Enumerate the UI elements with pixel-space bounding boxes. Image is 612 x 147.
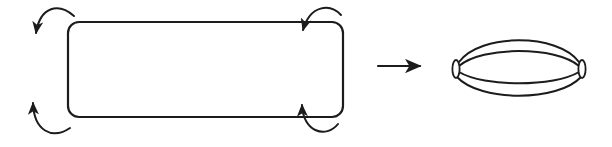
lens-meridian-upper	[459, 51, 579, 66]
lens-meridian-lower	[459, 72, 579, 83]
lens-right-cap	[578, 60, 585, 78]
glue-arrow-top-right	[303, 8, 341, 30]
glue-arrow-bottom-right	[302, 105, 338, 132]
lens-meridian-bottom	[457, 77, 581, 96]
lens-left-cap	[452, 60, 459, 78]
gluing-diagram	[0, 0, 612, 147]
rectangle-outline	[68, 22, 343, 117]
diagram-canvas	[0, 0, 612, 147]
glue-arrow-bottom-left	[33, 103, 70, 133]
